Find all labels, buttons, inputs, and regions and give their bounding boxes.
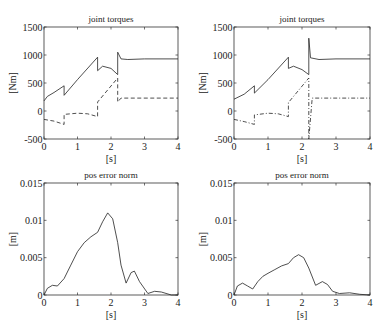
x-axis-label: [s] xyxy=(106,309,117,320)
y-tick-label: 0 xyxy=(228,106,233,117)
x-tick-label: 4 xyxy=(368,297,373,308)
y-tick-label: 1500 xyxy=(213,22,233,33)
y-tick-label: 0.005 xyxy=(20,252,43,263)
x-tick-label: 3 xyxy=(142,141,147,152)
x-tick-label: 2 xyxy=(109,297,114,308)
figure: 01234-500050010001500joint torques[s][Nm… xyxy=(0,0,381,330)
y-tick-label: 0 xyxy=(38,106,43,117)
x-tick-label: 1 xyxy=(75,141,80,152)
chart-bottom-right: 0123400.0050.010.015pos error norm[s][m] xyxy=(197,170,373,320)
y-tick-label: 0 xyxy=(228,290,233,301)
x-tick-label: 1 xyxy=(75,297,80,308)
y-tick-label: -500 xyxy=(214,134,232,145)
series-line xyxy=(234,255,370,295)
x-tick-label: 2 xyxy=(109,141,114,152)
series-line xyxy=(44,213,178,295)
y-tick-label: 1000 xyxy=(213,50,233,61)
y-tick-label: 0.01 xyxy=(25,215,43,226)
y-tick-label: 500 xyxy=(28,78,43,89)
y-tick-label: 500 xyxy=(218,78,233,89)
x-axis-label: [s] xyxy=(106,153,117,164)
y-tick-label: 0.015 xyxy=(210,178,233,189)
axes-box xyxy=(234,27,370,139)
x-tick-label: 4 xyxy=(176,297,181,308)
x-tick-label: 3 xyxy=(334,297,339,308)
chart-title: joint torques xyxy=(87,14,134,24)
axes-box xyxy=(234,183,370,295)
y-axis-label: [m] xyxy=(197,232,208,246)
y-axis-label: [Nm] xyxy=(7,72,18,94)
y-tick-label: -500 xyxy=(24,134,42,145)
x-tick-label: 2 xyxy=(300,297,305,308)
y-tick-label: 1500 xyxy=(23,22,43,33)
chart-title: pos error norm xyxy=(275,170,329,180)
series-line xyxy=(44,52,178,101)
x-tick-label: 4 xyxy=(368,141,373,152)
y-tick-label: 1000 xyxy=(23,50,43,61)
series-line xyxy=(44,78,178,124)
x-tick-label: 1 xyxy=(266,297,271,308)
chart-title: pos error norm xyxy=(84,170,138,180)
y-tick-label: 0.015 xyxy=(20,178,43,189)
x-tick-label: 1 xyxy=(266,141,271,152)
x-tick-label: 2 xyxy=(300,141,305,152)
x-tick-label: 3 xyxy=(142,297,147,308)
x-tick-label: 4 xyxy=(176,141,181,152)
y-tick-label: 0.01 xyxy=(215,215,233,226)
y-tick-label: 0.005 xyxy=(210,252,233,263)
chart-bottom-left: 0123400.0050.010.015pos error norm[s][m] xyxy=(7,170,181,320)
x-axis-label: [s] xyxy=(297,309,308,320)
chart-top-right: 01234-500050010001500joint torques[s][Nm… xyxy=(197,14,373,164)
x-tick-label: 3 xyxy=(334,141,339,152)
y-axis-label: [m] xyxy=(7,232,18,246)
x-axis-label: [s] xyxy=(297,153,308,164)
chart-title: joint torques xyxy=(278,14,325,24)
y-tick-label: 0 xyxy=(38,290,43,301)
chart-top-left: 01234-500050010001500joint torques[s][Nm… xyxy=(7,14,181,164)
y-axis-label: [Nm] xyxy=(197,72,208,94)
series-line xyxy=(234,38,370,99)
